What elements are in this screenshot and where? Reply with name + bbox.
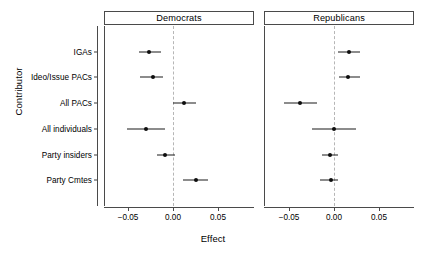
x-axis-tick (128, 207, 129, 211)
zero-reference-line (173, 26, 174, 206)
estimate-point-democrats-all-pacs (182, 101, 186, 105)
estimate-point-republicans-all-individuals (332, 127, 336, 131)
estimate-point-democrats-all-individuals (144, 127, 148, 131)
y-axis-label-all-pacs: All PACs (60, 99, 92, 108)
x-axis-tick (173, 207, 174, 211)
x-axis-tick-label-republicans-2: 0.05 (371, 213, 387, 222)
y-axis-label-party-cmtes: Party Cmtes (46, 176, 92, 185)
estimate-point-democrats-party-cmtes (194, 178, 198, 182)
y-axis-tick-labels: IGAsIdeo/Issue PACsAll PACsAll individua… (0, 0, 98, 255)
x-axis-tick-label-republicans-0: −0.05 (279, 213, 300, 222)
panel-header-label: Democrats (156, 13, 201, 23)
estimate-point-republicans-party-cmtes (329, 178, 333, 182)
y-axis-label-party-insiders: Party insiders (42, 150, 92, 159)
y-axis-label-igas: IGAs (74, 47, 92, 56)
x-axis-line-democrats (104, 207, 254, 208)
panel-plot-republicans (264, 26, 414, 206)
estimate-point-democrats-party-insiders (163, 153, 167, 157)
x-axis-tick-label-democrats-0: −0.05 (118, 213, 139, 222)
panel-left-frame (264, 26, 265, 206)
estimate-point-democrats-igas (147, 50, 151, 54)
x-axis-tick (218, 207, 219, 211)
estimate-point-republicans-party-insiders (328, 153, 332, 157)
x-axis-line-republicans (264, 207, 414, 208)
panel-plot-democrats (104, 26, 254, 206)
estimate-point-republicans-igas (347, 50, 351, 54)
coefficient-plot: Contributor Effect IGAsIdeo/Issue PACsAl… (0, 0, 426, 255)
x-axis-tick-label-democrats-1: 0.00 (165, 213, 181, 222)
x-axis-tick (379, 207, 380, 211)
x-axis-tick (289, 207, 290, 211)
y-axis-label-ideo-issue-pacs: Ideo/Issue PACs (31, 73, 92, 82)
panel-header-democrats: Democrats (104, 11, 254, 25)
estimate-point-democrats-ideo-issue-pacs (151, 75, 155, 79)
panel-header-label: Republicans (313, 13, 365, 23)
y-axis-spine (97, 26, 98, 206)
panel-header-republicans: Republicans (264, 11, 414, 25)
estimate-point-republicans-ideo-issue-pacs (346, 75, 350, 79)
x-axis-tick (334, 207, 335, 211)
panel-left-frame (104, 26, 105, 206)
y-axis-label-all-individuals: All individuals (42, 124, 92, 133)
x-axis-tick-label-republicans-1: 0.00 (326, 213, 342, 222)
estimate-point-republicans-all-pacs (298, 101, 302, 105)
x-axis-tick-label-democrats-2: 0.05 (210, 213, 226, 222)
